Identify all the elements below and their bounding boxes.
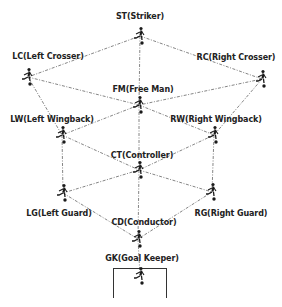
player-figure-icon-rw xyxy=(207,125,221,145)
player-figure-icon-ct xyxy=(132,160,146,180)
player-figure-icon-lg xyxy=(56,183,70,203)
player-figure-icon-lw xyxy=(55,125,69,145)
player-figure-icon-lc xyxy=(21,67,35,87)
player-figure-icon-st xyxy=(133,26,147,46)
label-rc: RC(Right Crosser) xyxy=(197,53,276,62)
label-ct: CT(Controller) xyxy=(111,151,173,160)
player-figure-icon-gk xyxy=(133,266,147,286)
edge-ct-rg xyxy=(139,170,212,192)
edge-ct-lg xyxy=(63,170,139,193)
label-lc: LC(Left Crosser) xyxy=(12,52,84,61)
label-lw: LW(Left Wingback) xyxy=(10,115,94,124)
player-figure-icon-rg xyxy=(205,182,219,202)
label-cd: CD(Conductor) xyxy=(111,218,176,227)
label-gk: GK(Goal Keeper) xyxy=(105,254,179,263)
label-rg: RG(Right Guard) xyxy=(195,209,268,218)
player-figure-icon-rc xyxy=(255,69,269,89)
label-rw: RW(Right Wingback) xyxy=(170,115,262,124)
label-lg: LG(Left Guard) xyxy=(26,209,92,218)
label-fm: FM(Free Man) xyxy=(112,85,173,94)
player-figure-icon-cd xyxy=(131,229,145,249)
player-figure-icon-fm xyxy=(132,95,146,115)
label-st: ST(Striker) xyxy=(116,12,164,21)
